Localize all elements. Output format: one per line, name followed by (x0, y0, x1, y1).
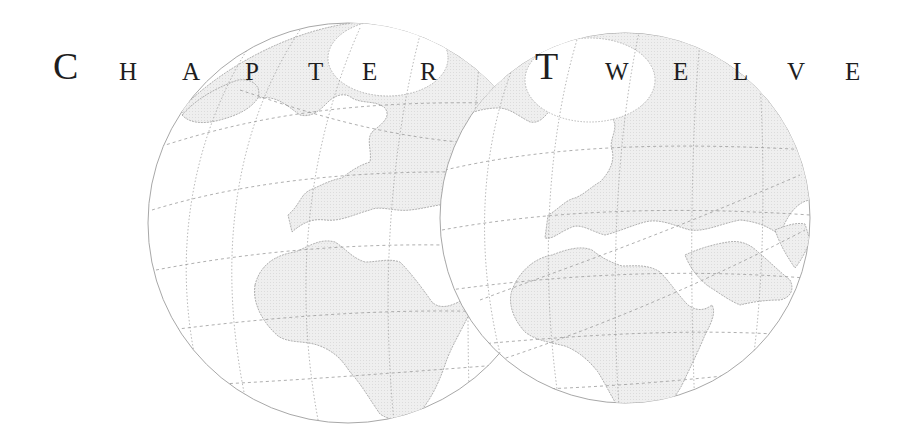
arctic-region (328, 20, 448, 96)
arctic-region (525, 38, 655, 122)
globe-illustration (0, 0, 922, 438)
chapter-heading-page: C H A P T E R T W E L V E (0, 0, 922, 438)
right-globe (440, 22, 810, 420)
